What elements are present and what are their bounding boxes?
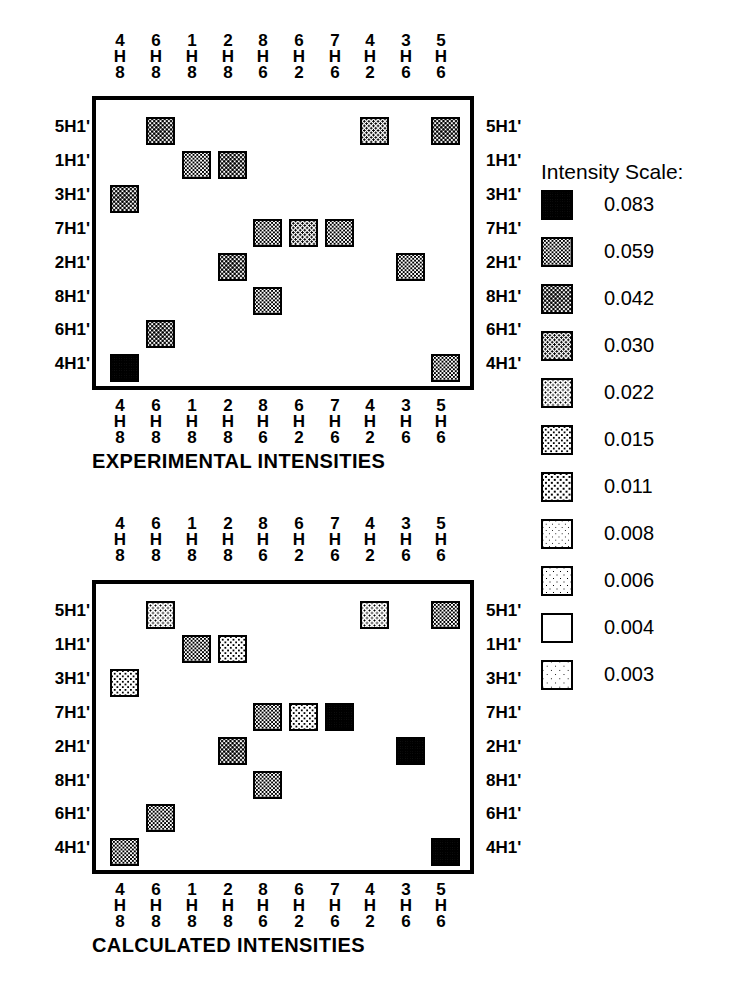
legend-title: Intensity Scale:	[541, 160, 683, 184]
legend-value: 0.011	[604, 475, 653, 498]
legend-value: 0.022	[604, 381, 654, 404]
legend-row: 0.030	[541, 331, 711, 363]
legend-swatch-icon	[541, 331, 573, 361]
legend-value: 0.030	[604, 334, 654, 357]
legend-swatch-icon	[541, 519, 573, 549]
legend-row: 0.004	[541, 613, 711, 645]
legend-value: 0.006	[604, 569, 654, 592]
legend-row: 0.003	[541, 660, 711, 692]
intensity-scale-legend: Intensity Scale:0.0830.0590.0420.0300.02…	[0, 0, 739, 989]
legend-swatch-icon	[541, 425, 573, 455]
legend-row: 0.015	[541, 425, 711, 457]
legend-value: 0.004	[604, 616, 654, 639]
legend-row: 0.042	[541, 284, 711, 316]
legend-swatch-icon	[541, 613, 573, 643]
legend-swatch-icon	[541, 660, 573, 690]
legend-row: 0.059	[541, 237, 711, 269]
legend-value: 0.083	[604, 193, 654, 216]
legend-row: 0.006	[541, 566, 711, 598]
legend-value: 0.042	[604, 287, 654, 310]
legend-value: 0.003	[604, 663, 654, 686]
legend-row: 0.022	[541, 378, 711, 410]
legend-swatch-icon	[541, 472, 573, 502]
legend-row: 0.083	[541, 190, 711, 222]
legend-value: 0.015	[604, 428, 654, 451]
legend-swatch-icon	[541, 566, 573, 596]
legend-row: 0.011	[541, 472, 711, 504]
legend-swatch-icon	[541, 378, 573, 408]
legend-value: 0.008	[604, 522, 654, 545]
legend-value: 0.059	[604, 240, 654, 263]
legend-row: 0.008	[541, 519, 711, 551]
legend-swatch-icon	[541, 284, 573, 314]
legend-swatch-icon	[541, 237, 573, 267]
legend-swatch-icon	[541, 190, 573, 220]
